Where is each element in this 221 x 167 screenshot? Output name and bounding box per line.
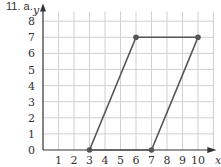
y-tick-label: 7 [28,31,35,44]
vertex-point [149,147,155,153]
y-tick-label: 2 [28,112,35,125]
parallelogram-shape [90,37,199,150]
vertex-point [195,35,201,41]
x-tick-label: 3 [86,154,93,167]
x-tick-label: 10 [191,154,205,167]
x-tick-label: 4 [102,154,109,167]
x-tick-label: 6 [133,154,140,167]
y-axis-arrow-icon [40,3,46,11]
y-tick-label: 4 [28,80,35,93]
x-tick-label: 2 [71,154,78,167]
y-tick-label: 1 [28,128,35,141]
x-tick-label: 1 [55,154,62,167]
vertex-point [87,147,93,153]
y-tick-label: 6 [28,47,35,60]
x-axis-arrow-icon [207,147,216,153]
x-tick-label: 5 [117,154,124,167]
y-tick-label: 3 [28,96,35,109]
coordinate-plane: 12345678910012345678xy [0,0,221,167]
x-axis-label: x [215,154,221,167]
y-tick-label: 5 [28,64,35,77]
x-tick-label: 7 [148,154,155,167]
x-tick-label: 8 [164,154,171,167]
vertex-point [133,35,139,41]
y-axis-label: y [32,4,40,17]
y-tick-label: 0 [28,144,35,157]
x-tick-label: 9 [179,154,186,167]
y-tick-label: 8 [28,15,35,28]
